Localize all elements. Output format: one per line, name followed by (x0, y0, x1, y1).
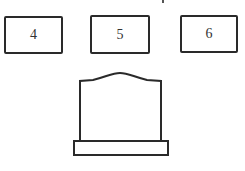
tombstone-base (74, 141, 168, 155)
tombstone-body (80, 73, 161, 141)
tombstone-icon (0, 0, 245, 171)
